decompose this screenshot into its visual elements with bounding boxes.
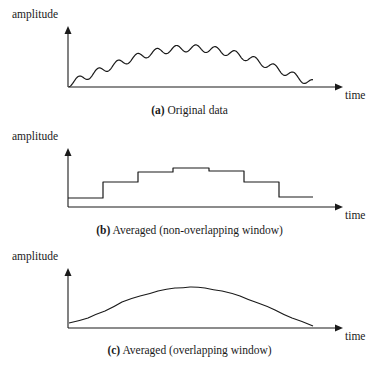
caption-text: Original data (165, 104, 228, 116)
panel-c (65, 268, 344, 332)
caption-tag: (c) (107, 344, 120, 356)
y-axis-arrow-icon (65, 26, 72, 34)
signal-curve-a (69, 45, 313, 87)
y-axis-label: amplitude (12, 250, 58, 262)
x-axis-label: time (345, 89, 365, 101)
caption-c: (c) Averaged (overlapping window) (0, 344, 379, 356)
y-axis-label: amplitude (12, 8, 58, 20)
y-axis-arrow-icon (65, 268, 72, 276)
y-axis-label: amplitude (12, 130, 58, 142)
x-axis-arrow-icon (335, 325, 343, 332)
caption-b: (b) Averaged (non-overlapping window) (0, 224, 379, 236)
signal-curve-c (69, 287, 313, 326)
signal-curve-b (68, 168, 313, 198)
caption-a: (a) Original data (0, 104, 379, 116)
caption-text: Averaged (overlapping window) (120, 344, 271, 356)
panel-b (65, 148, 344, 211)
x-axis-arrow-icon (335, 204, 343, 211)
x-axis-label: time (345, 209, 365, 221)
caption-text: Averaged (non-overlapping window) (110, 224, 283, 236)
x-axis-label: time (345, 330, 365, 342)
panel-a (65, 26, 344, 91)
x-axis-arrow-icon (335, 84, 343, 91)
figure-canvas (0, 0, 379, 371)
caption-tag: (b) (96, 224, 110, 236)
y-axis-arrow-icon (65, 148, 72, 156)
caption-tag: (a) (151, 104, 164, 116)
